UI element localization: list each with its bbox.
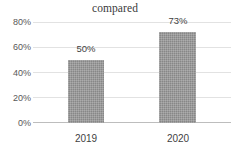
bar-value-label-2020: 73% bbox=[168, 15, 187, 26]
x-tick-label-2019: 2019 bbox=[75, 133, 97, 144]
gridline-20 bbox=[33, 97, 231, 98]
y-tick-label-60: 60% bbox=[1, 42, 31, 52]
bar-2019[interactable] bbox=[68, 60, 104, 123]
bar-2020[interactable] bbox=[159, 32, 196, 123]
x-tick-label-2020: 2020 bbox=[167, 133, 189, 144]
chart-title: compared bbox=[40, 1, 190, 15]
gridline-60 bbox=[33, 47, 231, 48]
y-tick-label-80: 80% bbox=[1, 17, 31, 27]
plot-area bbox=[33, 22, 231, 123]
bar-value-label-2019: 50% bbox=[76, 43, 95, 54]
gridline-baseline-0 bbox=[33, 122, 231, 123]
y-tick-label-20: 20% bbox=[1, 93, 31, 103]
gridline-40 bbox=[33, 72, 231, 73]
y-axis-tick-labels: 0% 20% 40% 60% 80% bbox=[0, 22, 31, 123]
y-tick-label-0: 0% bbox=[1, 118, 31, 128]
bar-chart: compared 0% 20% 40% 60% 80% 50% 73% 2019… bbox=[0, 0, 235, 157]
y-tick-label-40: 40% bbox=[1, 68, 31, 78]
gridline-80 bbox=[33, 22, 231, 23]
